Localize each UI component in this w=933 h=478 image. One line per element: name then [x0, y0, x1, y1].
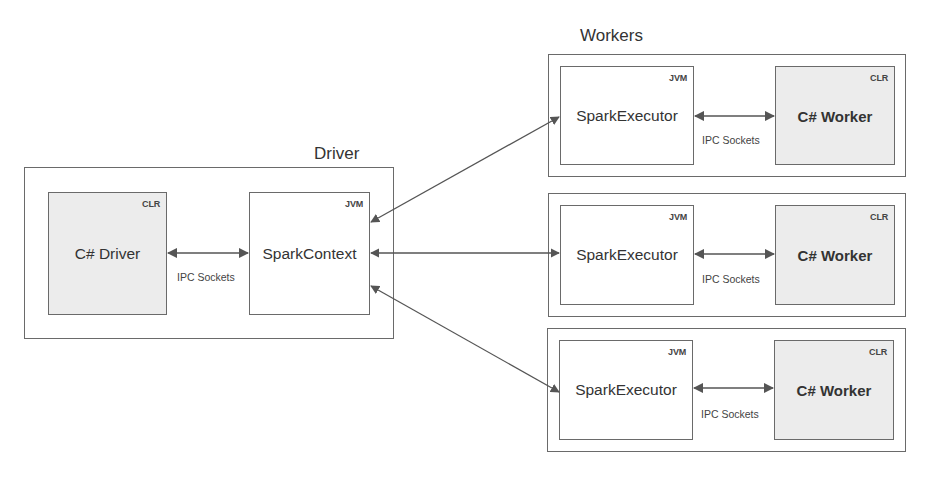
- spark-executor-label: SparkExecutor: [561, 107, 693, 125]
- workers-group-title: Workers: [580, 26, 643, 46]
- context-executor-3-arrow: [371, 286, 559, 392]
- csharp-worker-node-1: CLR C# Worker: [775, 66, 895, 165]
- clr-runtime-tag: CLR: [870, 212, 888, 222]
- spark-executor-label: SparkExecutor: [561, 246, 693, 264]
- worker-ipc-label-1: IPC Sockets: [702, 134, 760, 146]
- context-executor-1-arrow: [371, 117, 559, 222]
- driver-ipc-label: IPC Sockets: [177, 271, 235, 283]
- spark-executor-node-1: JVM SparkExecutor: [560, 66, 694, 165]
- csharp-worker-node-2: CLR C# Worker: [775, 205, 895, 305]
- jvm-runtime-tag: JVM: [668, 347, 686, 357]
- jvm-runtime-tag: JVM: [669, 73, 687, 83]
- csharp-worker-label: C# Worker: [776, 247, 894, 264]
- csharp-driver-label: C# Driver: [49, 245, 166, 263]
- clr-runtime-tag: CLR: [869, 347, 887, 357]
- jvm-runtime-tag: JVM: [345, 199, 363, 209]
- driver-group-title: Driver: [314, 144, 359, 164]
- worker-ipc-label-3: IPC Sockets: [701, 408, 759, 420]
- spark-executor-node-2: JVM SparkExecutor: [560, 205, 694, 305]
- spark-context-node: JVM SparkContext: [249, 192, 370, 315]
- csharp-worker-label: C# Worker: [776, 107, 894, 124]
- spark-context-label: SparkContext: [250, 245, 369, 263]
- spark-executor-node-3: JVM SparkExecutor: [559, 340, 693, 440]
- worker-ipc-label-2: IPC Sockets: [702, 273, 760, 285]
- csharp-worker-label: C# Worker: [775, 382, 893, 399]
- jvm-runtime-tag: JVM: [669, 212, 687, 222]
- spark-executor-label: SparkExecutor: [560, 381, 692, 399]
- clr-runtime-tag: CLR: [870, 73, 888, 83]
- csharp-worker-node-3: CLR C# Worker: [774, 340, 894, 440]
- clr-runtime-tag: CLR: [142, 199, 160, 209]
- csharp-driver-node: CLR C# Driver: [48, 192, 167, 315]
